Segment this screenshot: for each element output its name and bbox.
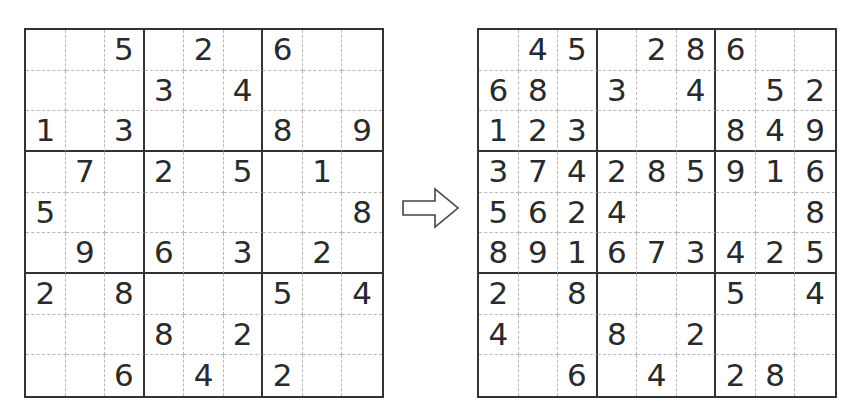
initial-cell-r2c8[interactable] [303, 71, 343, 112]
initial-cell-r8c5[interactable] [184, 315, 224, 356]
initial-cell-r8c6[interactable]: 2 [224, 315, 264, 356]
initial-cell-r5c5[interactable] [184, 193, 224, 234]
initial-cell-r1c4[interactable] [145, 30, 185, 71]
progress-cell-r3c6[interactable] [677, 111, 717, 152]
initial-cell-r7c5[interactable] [184, 274, 224, 315]
initial-cell-r7c1[interactable]: 2 [26, 274, 66, 315]
initial-cell-r3c1[interactable]: 1 [26, 111, 66, 152]
progress-cell-r3c2[interactable]: 2 [519, 111, 559, 152]
initial-cell-r4c8[interactable]: 1 [303, 152, 343, 193]
progress-cell-r4c4[interactable]: 2 [598, 152, 638, 193]
progress-cell-r1c7[interactable]: 6 [716, 30, 756, 71]
initial-cell-r9c5[interactable]: 4 [184, 355, 224, 396]
progress-cell-r2c6[interactable]: 4 [677, 71, 717, 112]
initial-cell-r8c7[interactable] [263, 315, 303, 356]
progress-cell-r5c6[interactable] [677, 193, 717, 234]
progress-cell-r4c3[interactable]: 4 [558, 152, 598, 193]
progress-cell-r3c3[interactable]: 3 [558, 111, 598, 152]
progress-cell-r4c5[interactable]: 8 [637, 152, 677, 193]
progress-cell-r2c9[interactable]: 2 [795, 71, 835, 112]
initial-cell-r6c1[interactable] [26, 233, 66, 274]
progress-cell-r7c1[interactable]: 2 [479, 274, 519, 315]
progress-cell-r7c7[interactable]: 5 [716, 274, 756, 315]
progress-cell-r3c8[interactable]: 4 [756, 111, 796, 152]
progress-cell-r4c6[interactable]: 5 [677, 152, 717, 193]
progress-cell-r7c9[interactable]: 4 [795, 274, 835, 315]
progress-cell-r6c9[interactable]: 5 [795, 233, 835, 274]
progress-cell-r6c4[interactable]: 6 [598, 233, 638, 274]
initial-cell-r2c5[interactable] [184, 71, 224, 112]
initial-cell-r6c6[interactable]: 3 [224, 233, 264, 274]
initial-cell-r5c6[interactable] [224, 193, 264, 234]
initial-cell-r6c2[interactable]: 9 [66, 233, 106, 274]
initial-cell-r3c8[interactable] [303, 111, 343, 152]
progress-cell-r1c8[interactable] [756, 30, 796, 71]
initial-cell-r3c9[interactable]: 9 [342, 111, 382, 152]
initial-cell-r9c3[interactable]: 6 [105, 355, 145, 396]
initial-cell-r5c1[interactable]: 5 [26, 193, 66, 234]
initial-cell-r8c4[interactable]: 8 [145, 315, 185, 356]
initial-cell-r3c7[interactable]: 8 [263, 111, 303, 152]
initial-cell-r9c7[interactable]: 2 [263, 355, 303, 396]
initial-cell-r4c4[interactable]: 2 [145, 152, 185, 193]
progress-cell-r8c3[interactable] [558, 315, 598, 356]
progress-cell-r6c1[interactable]: 8 [479, 233, 519, 274]
initial-cell-r1c2[interactable] [66, 30, 106, 71]
progress-cell-r5c3[interactable]: 2 [558, 193, 598, 234]
progress-cell-r5c2[interactable]: 6 [519, 193, 559, 234]
initial-cell-r1c1[interactable] [26, 30, 66, 71]
progress-cell-r7c5[interactable] [637, 274, 677, 315]
progress-cell-r5c9[interactable]: 8 [795, 193, 835, 234]
progress-cell-r3c7[interactable]: 8 [716, 111, 756, 152]
progress-cell-r3c9[interactable]: 9 [795, 111, 835, 152]
progress-cell-r4c2[interactable]: 7 [519, 152, 559, 193]
progress-cell-r8c1[interactable]: 4 [479, 315, 519, 356]
progress-cell-r7c8[interactable] [756, 274, 796, 315]
initial-cell-r5c2[interactable] [66, 193, 106, 234]
progress-cell-r3c4[interactable] [598, 111, 638, 152]
initial-cell-r3c2[interactable] [66, 111, 106, 152]
progress-cell-r4c7[interactable]: 9 [716, 152, 756, 193]
initial-cell-r6c9[interactable] [342, 233, 382, 274]
progress-cell-r4c1[interactable]: 3 [479, 152, 519, 193]
progress-cell-r9c8[interactable]: 8 [756, 355, 796, 396]
progress-cell-r9c3[interactable]: 6 [558, 355, 598, 396]
progress-cell-r5c5[interactable] [637, 193, 677, 234]
progress-cell-r7c3[interactable]: 8 [558, 274, 598, 315]
initial-cell-r7c6[interactable] [224, 274, 264, 315]
initial-cell-r2c1[interactable] [26, 71, 66, 112]
initial-cell-r9c2[interactable] [66, 355, 106, 396]
progress-cell-r6c5[interactable]: 7 [637, 233, 677, 274]
initial-cell-r3c4[interactable] [145, 111, 185, 152]
initial-cell-r7c7[interactable]: 5 [263, 274, 303, 315]
initial-cell-r9c9[interactable] [342, 355, 382, 396]
progress-cell-r2c2[interactable]: 8 [519, 71, 559, 112]
progress-cell-r8c9[interactable] [795, 315, 835, 356]
initial-cell-r8c8[interactable] [303, 315, 343, 356]
progress-cell-r7c2[interactable] [519, 274, 559, 315]
initial-cell-r7c3[interactable]: 8 [105, 274, 145, 315]
initial-cell-r9c6[interactable] [224, 355, 264, 396]
progress-cell-r9c4[interactable] [598, 355, 638, 396]
initial-cell-r1c7[interactable]: 6 [263, 30, 303, 71]
progress-cell-r9c9[interactable] [795, 355, 835, 396]
initial-cell-r1c8[interactable] [303, 30, 343, 71]
initial-cell-r9c8[interactable] [303, 355, 343, 396]
initial-cell-r6c8[interactable]: 2 [303, 233, 343, 274]
initial-cell-r9c1[interactable] [26, 355, 66, 396]
initial-cell-r2c3[interactable] [105, 71, 145, 112]
initial-cell-r4c3[interactable] [105, 152, 145, 193]
progress-cell-r8c4[interactable]: 8 [598, 315, 638, 356]
initial-cell-r1c5[interactable]: 2 [184, 30, 224, 71]
initial-cell-r4c9[interactable] [342, 152, 382, 193]
progress-cell-r4c8[interactable]: 1 [756, 152, 796, 193]
progress-cell-r9c7[interactable]: 2 [716, 355, 756, 396]
progress-cell-r2c1[interactable]: 6 [479, 71, 519, 112]
initial-cell-r4c6[interactable]: 5 [224, 152, 264, 193]
progress-cell-r5c4[interactable]: 4 [598, 193, 638, 234]
progress-cell-r1c2[interactable]: 4 [519, 30, 559, 71]
progress-cell-r6c3[interactable]: 1 [558, 233, 598, 274]
initial-cell-r5c4[interactable] [145, 193, 185, 234]
progress-cell-r3c5[interactable] [637, 111, 677, 152]
progress-cell-r9c5[interactable]: 4 [637, 355, 677, 396]
